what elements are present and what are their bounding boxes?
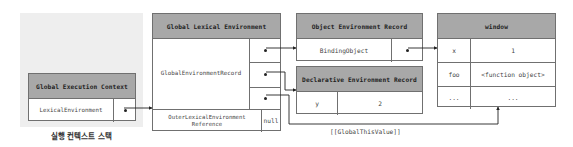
connector-lines: [0, 0, 573, 147]
global-this-value-label: [[GlobalThisValue]]: [330, 128, 401, 135]
